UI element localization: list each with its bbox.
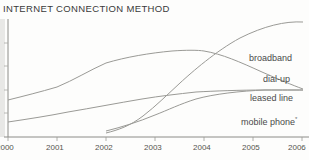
series-label-leased-line: leased line bbox=[250, 93, 293, 103]
series-label-mobile-phone: mobile phone* bbox=[241, 116, 297, 127]
xtick-label-2003: 2003 bbox=[144, 143, 162, 152]
xtick-label-2001: 2001 bbox=[46, 143, 64, 152]
series-label-dial-up: dial-up bbox=[263, 74, 290, 84]
xtick-label-2006: 2006 bbox=[288, 143, 306, 152]
footnote-asterisk-icon: * bbox=[295, 116, 297, 122]
series-label-broadband: broadband bbox=[249, 53, 292, 63]
xtick-label-2004: 2004 bbox=[193, 143, 211, 152]
xtick-label-2005: 2005 bbox=[242, 143, 260, 152]
xtick-label-2000: 2000 bbox=[0, 143, 14, 152]
series-label-mobile-phone-text: mobile phone bbox=[241, 117, 295, 127]
chart-screenshot: INTERNET CONNECTION METHOD broadband dia bbox=[0, 0, 309, 160]
y-axis-edge-band bbox=[0, 19, 5, 137]
xtick-label-2002: 2002 bbox=[95, 143, 113, 152]
